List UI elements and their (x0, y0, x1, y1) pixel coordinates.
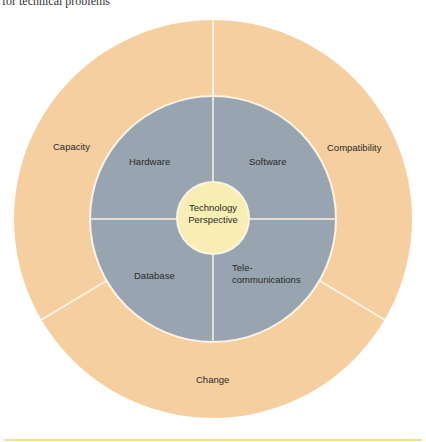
center-label-line2: Perspective (186, 214, 240, 226)
segment-telecommunications: Tele- communications (232, 262, 301, 286)
bottom-rule (4, 439, 422, 441)
center-label-line1: Technology (186, 202, 240, 214)
segment-hardware: Hardware (129, 156, 170, 168)
segment-change: Change (196, 374, 229, 386)
segment-compatibility: Compatibility (327, 142, 381, 154)
center-label: Technology Perspective (186, 202, 240, 226)
telecom-line1: Tele- (232, 262, 301, 274)
segment-software: Software (249, 156, 287, 168)
telecom-line2: communications (232, 274, 301, 286)
segment-database: Database (134, 270, 175, 282)
segment-capacity: Capacity (53, 141, 90, 153)
